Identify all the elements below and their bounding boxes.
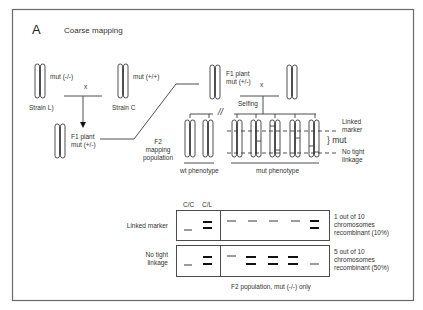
strain-l-chromosomes	[35, 64, 45, 98]
mut-bracket-label: } mut	[327, 136, 346, 146]
gel-row2-label-2: linkage	[110, 259, 168, 266]
gel-row1-result-3: recombinant (10%)	[334, 229, 389, 236]
linked-marker-label-2: marker	[342, 126, 362, 133]
gel-col-cc: C/C	[183, 201, 194, 208]
f1-cross-symbol: x	[260, 81, 263, 88]
panel-letter: A	[32, 23, 41, 38]
f1-connector-line	[100, 84, 199, 139]
strain-c-chromosomes	[118, 64, 128, 98]
f1-partner-chromosomes	[287, 65, 297, 99]
strain-c-name: Strain C	[112, 104, 135, 111]
wt-phenotype-label: wt phenotype	[180, 167, 219, 174]
parent-cross-symbol: x	[84, 83, 87, 90]
f2-branch-lines	[190, 114, 316, 118]
break-symbol: //	[218, 107, 223, 117]
panel-title: Coarse mapping	[64, 26, 123, 35]
gel-row2-result-1: 5 out of 10	[334, 248, 365, 255]
gel-row2-label-1: No tight	[110, 251, 168, 258]
gel-row2-result-3: recombinant (50%)	[334, 264, 389, 271]
mut-chromosome-pairs	[232, 120, 319, 157]
selfing-label: Selfing	[238, 100, 258, 107]
no-tight-label-1: No tight	[342, 148, 364, 155]
gel-box-linked-marker	[177, 211, 330, 241]
f2-label-3: population	[138, 154, 178, 161]
f2-label-1: F2	[140, 138, 176, 145]
strain-c-genotype: mut (+/+)	[133, 73, 159, 80]
f1-left-label-1: F1 plant	[71, 133, 95, 140]
wt-chromosome-pairs	[185, 120, 213, 157]
f1-left-label-2: mut (+/-)	[71, 141, 96, 148]
gel-row1-result-1: 1 out of 10	[334, 213, 365, 220]
gel-row2-result-2: chromosomes	[334, 256, 375, 263]
f1-top-label-1: F1 plant	[226, 70, 250, 77]
gel-caption: F2 population, mut (-/-) only	[231, 283, 311, 290]
f1-top-label-2: mut (+/-)	[226, 78, 251, 85]
f1-chromosomes-top	[210, 65, 220, 99]
strain-l-genotype: mut (-/-)	[50, 73, 73, 80]
no-tight-label-2: linkage	[342, 156, 363, 163]
gel-row1-label: Linked marker	[110, 222, 168, 229]
gel-box-no-tight-linkage	[177, 246, 330, 277]
f2-label-2: mapping	[140, 146, 176, 153]
f1-chromosomes-left	[55, 124, 65, 158]
coarse-mapping-figure: A Coarse mapping mut (-/-) Strain L) x m…	[0, 0, 423, 310]
down-arrow-icon	[80, 122, 86, 128]
mut-phenotype-label: mut phenotype	[256, 167, 299, 174]
gel-row1-result-2: chromosomes	[334, 221, 375, 228]
gel-col-cl: C/L	[202, 201, 212, 208]
linked-marker-label-1: Linked	[342, 118, 361, 125]
strain-l-name: Strain L)	[29, 104, 54, 111]
